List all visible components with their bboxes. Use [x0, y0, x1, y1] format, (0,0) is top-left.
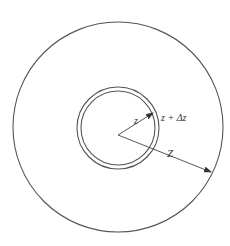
outer-boundary-circle: [13, 22, 223, 232]
radius-Z-label: Z: [167, 147, 174, 159]
shell-inner-circle: [81, 91, 155, 165]
concentric-shell-diagram: z Z z + Δz: [0, 0, 230, 246]
shell-outer-circle: [77, 87, 159, 169]
shell-radius-label: z + Δz: [160, 112, 187, 123]
radius-z-label: z: [133, 115, 138, 126]
